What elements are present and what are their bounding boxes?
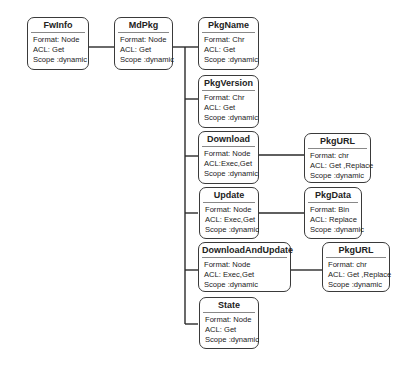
node-title: PkgName [202, 18, 255, 33]
node-scope: Scope :dynamic [204, 169, 255, 179]
node-acl: ACL: Get [204, 103, 255, 113]
node-title: PkgURL [308, 134, 367, 149]
node-acl: ACL: Get [33, 45, 85, 55]
node-format: Format: Node [204, 260, 287, 270]
node-pkgurl-downloadandupdate: PkgURL Format: chr ACL: Get ,Replace Sco… [322, 242, 390, 292]
node-format: Format: Chr [204, 35, 255, 45]
dm-tree-diagram: FwInfo Format: Node ACL: Get Scope :dyna… [0, 0, 418, 369]
node-format: Format: Node [205, 315, 255, 325]
node-scope: Scope :dynamic [205, 225, 255, 235]
node-acl: ACL: Exec,Get [205, 215, 255, 225]
node-scope: Scope :dynamic [328, 280, 386, 290]
node-format: Format: Chr [204, 93, 255, 103]
node-acl: ACL: Replace [310, 215, 358, 225]
node-scope: Scope :dynamic [205, 335, 255, 345]
node-format: Format: chr [328, 260, 386, 270]
node-scope: Scope :dynamic [204, 280, 287, 290]
node-acl: ACL: Get [120, 45, 169, 55]
node-format: Format: chr [310, 151, 367, 161]
node-state: State Format: Node ACL: Get Scope :dynam… [199, 297, 259, 349]
node-title: Update [203, 188, 255, 203]
node-format: Format: Node [120, 35, 169, 45]
node-scope: Scope :dynamic [310, 225, 358, 235]
node-format: Format: Node [33, 35, 85, 45]
node-scope: Scope :dynamic [310, 171, 367, 181]
node-scope: Scope :dynamic [204, 113, 255, 123]
node-pkgversion: PkgVersion Format: Chr ACL: Get Scope :d… [198, 75, 259, 128]
node-title: DownloadAndUpdate [202, 243, 287, 258]
node-pkgurl-download: PkgURL Format: chr ACL: Get ,Replace Sco… [304, 133, 371, 183]
node-download: Download Format: Node ACL:Exec,Get Scope… [198, 131, 259, 184]
node-update: Update Format: Node ACL: Exec,Get Scope … [199, 187, 259, 239]
node-fwinfo: FwInfo Format: Node ACL: Get Scope :dyna… [27, 17, 89, 70]
node-title: Download [202, 132, 255, 147]
node-title: State [203, 298, 255, 313]
node-pkgname: PkgName Format: Chr ACL: Get Scope :dyna… [198, 17, 259, 70]
node-scope: Scope :dynamic [204, 55, 255, 65]
node-scope: Scope :dynamic [33, 55, 85, 65]
node-acl: ACL: Exec,Get [204, 270, 287, 280]
node-scope: Scope :dynamic [120, 55, 169, 65]
node-acl: ACL: Get [205, 325, 255, 335]
node-title: PkgData [308, 188, 358, 203]
node-downloadandupdate: DownloadAndUpdate Format: Node ACL: Exec… [198, 242, 291, 292]
node-pkgdata: PkgData Format: Bin ACL: Replace Scope :… [304, 187, 362, 239]
node-format: Format: Node [204, 149, 255, 159]
node-title: FwInfo [31, 18, 85, 33]
node-acl: ACL: Get [204, 45, 255, 55]
node-acl: ACL: Get ,Replace [328, 270, 386, 280]
node-title: PkgVersion [202, 76, 255, 91]
node-format: Format: Bin [310, 205, 358, 215]
node-mdpkg: MdPkg Format: Node ACL: Get Scope :dynam… [114, 17, 173, 70]
node-title: PkgURL [326, 243, 386, 258]
node-format: Format: Node [205, 205, 255, 215]
node-acl: ACL: Get ,Replace [310, 161, 367, 171]
node-acl: ACL:Exec,Get [204, 159, 255, 169]
node-title: MdPkg [118, 18, 169, 33]
